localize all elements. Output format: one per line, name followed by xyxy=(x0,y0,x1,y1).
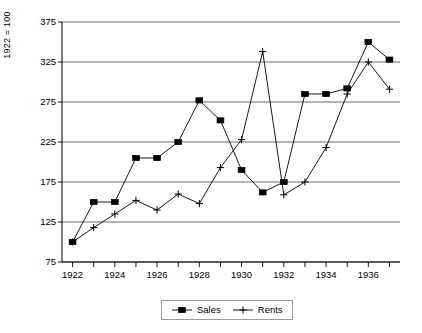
data-point-marker xyxy=(217,118,224,123)
chart-legend: SalesRents xyxy=(161,300,293,320)
data-point-marker xyxy=(133,155,140,160)
legend-item-sales[interactable]: Sales xyxy=(171,304,221,316)
data-point-marker xyxy=(323,91,330,96)
plus-icon xyxy=(232,304,254,316)
data-point-marker xyxy=(179,307,186,312)
data-point-marker xyxy=(302,91,309,96)
series-line xyxy=(73,52,390,242)
filled-square-icon xyxy=(171,304,193,316)
data-point-marker xyxy=(386,57,393,62)
data-point-marker xyxy=(90,199,97,204)
data-point-marker xyxy=(365,39,372,44)
series-rents xyxy=(69,48,393,246)
data-point-marker xyxy=(238,167,245,172)
legend-label: Sales xyxy=(197,305,221,315)
data-point-marker xyxy=(259,190,266,195)
line-chart: 1922 = 100 75125175225275325375 19221924… xyxy=(0,0,422,333)
legend-label: Rents xyxy=(258,305,283,315)
data-point-marker xyxy=(111,199,118,204)
plot-area xyxy=(0,0,422,333)
legend-item-rents[interactable]: Rents xyxy=(232,304,283,316)
data-point-marker xyxy=(196,98,203,103)
data-point-marker xyxy=(154,155,161,160)
data-point-marker xyxy=(175,139,182,144)
